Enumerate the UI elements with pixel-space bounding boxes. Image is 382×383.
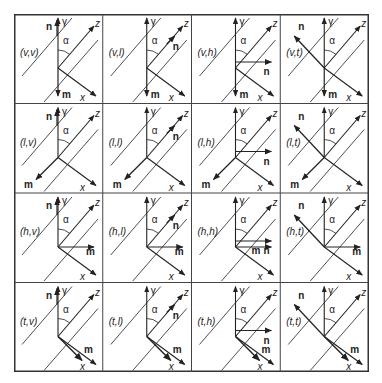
alpha-label: α [63, 35, 69, 46]
diagram-cell: γzxα(t,l)nm [109, 285, 189, 372]
z-axis [324, 295, 360, 337]
diagram-cell: γzxα(v,v)nm [20, 16, 100, 103]
alpha-arc [147, 50, 159, 54]
z-axis [58, 205, 94, 247]
diagram-cell: γzxα(h,h)nm [198, 195, 278, 282]
alpha-arc [324, 139, 336, 143]
gamma-label: γ [62, 16, 67, 27]
z-label: z [360, 108, 366, 119]
diagram-cell: γzxα(h,l)nm [109, 195, 189, 282]
x-axis [58, 158, 96, 186]
gamma-label: γ [328, 16, 333, 27]
gamma-label: γ [328, 195, 333, 206]
x-label: x [257, 182, 264, 193]
n-label: n [298, 200, 304, 211]
wavefront-line [44, 309, 98, 371]
x-label: x [79, 361, 86, 372]
m-vector [302, 158, 324, 180]
diagram-cell: γzxα(t,v)nm [20, 285, 100, 372]
gamma-label: γ [151, 195, 156, 206]
z-label: z [360, 18, 366, 29]
x-label: x [79, 182, 86, 193]
n-label: n [298, 290, 304, 301]
x-axis [147, 158, 185, 186]
x-label: x [345, 271, 352, 282]
wavefront-line [44, 130, 98, 192]
m-label: m [240, 89, 249, 100]
alpha-label: α [152, 35, 158, 46]
z-axis [58, 26, 94, 68]
m-vector [125, 158, 147, 180]
z-axis [58, 295, 94, 337]
cell-label: (v,h) [198, 47, 217, 58]
alpha-arc [324, 318, 336, 322]
m-label: m [86, 246, 95, 257]
z-label: z [183, 287, 189, 298]
m-vector [214, 158, 236, 180]
alpha-arc [236, 229, 248, 233]
z-axis [324, 26, 360, 68]
x-label: x [168, 92, 175, 103]
cell-label: (v,v) [20, 47, 39, 58]
m-label: m [328, 89, 337, 100]
m-label: m [151, 89, 160, 100]
z-label: z [94, 197, 100, 208]
cell-label: (t,t) [286, 316, 301, 327]
alpha-arc [147, 229, 159, 233]
z-label: z [94, 18, 100, 29]
diagram-cell: γzxα(t,t)nm [286, 285, 366, 372]
alpha-arc [58, 50, 70, 54]
alpha-arc [324, 50, 336, 54]
m-label: m [62, 89, 71, 100]
x-label: x [168, 361, 175, 372]
x-label: x [168, 182, 175, 193]
gamma-label: γ [62, 106, 67, 117]
alpha-arc [147, 139, 159, 143]
cell-label: (v,l) [109, 47, 125, 58]
z-axis [324, 116, 360, 158]
gamma-label: γ [62, 195, 67, 206]
n-label: n [46, 200, 52, 211]
z-axis [58, 116, 94, 158]
x-label: x [345, 92, 352, 103]
z-label: z [183, 197, 189, 208]
x-label: x [79, 271, 86, 282]
alpha-label: α [63, 304, 69, 315]
z-label: z [272, 197, 278, 208]
n-label: n [298, 21, 304, 32]
gamma-label: γ [62, 285, 67, 296]
m-label: m [350, 344, 359, 355]
gamma-label: γ [240, 16, 245, 27]
m-label: m [262, 344, 271, 355]
x-label: x [257, 271, 264, 282]
alpha-label: α [241, 304, 247, 315]
cell-label: (l,l) [109, 137, 123, 148]
z-label: z [272, 287, 278, 298]
cell-label: (h,t) [286, 226, 304, 237]
m-label: m [352, 246, 361, 257]
x-label: x [79, 92, 86, 103]
z-label: z [94, 108, 100, 119]
alpha-arc [324, 229, 336, 233]
diagram-cell: γzxα(v,t)nm [286, 16, 366, 103]
cell-label: (h,v) [20, 226, 40, 237]
m-label: m [175, 246, 184, 257]
figure-svg: γzxα(v,v)nmγzxα(v,l)nmγzxα(v,h)nmγzxα(v,… [14, 14, 369, 372]
alpha-label: α [241, 35, 247, 46]
wavefront-line [44, 40, 98, 102]
z-label: z [360, 287, 366, 298]
m-label: m [252, 245, 261, 256]
alpha-label: α [329, 214, 335, 225]
diagram-cell: γzxα(l,l)nm [109, 106, 189, 193]
wavefront-line [310, 309, 364, 371]
cell-label: (h,h) [198, 226, 219, 237]
n-label: n [264, 156, 270, 167]
cell-label: (v,t) [286, 47, 302, 58]
diagram-cell: γzxα(l,v)nm [20, 106, 100, 193]
alpha-label: α [329, 35, 335, 46]
z-label: z [360, 197, 366, 208]
cell-label: (t,h) [198, 316, 216, 327]
alpha-label: α [152, 304, 158, 315]
n-label: n [46, 111, 52, 122]
m-label: m [84, 344, 93, 355]
